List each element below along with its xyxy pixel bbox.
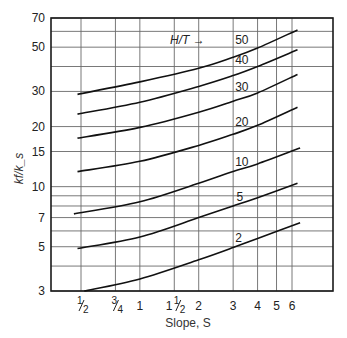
- curves: [74, 30, 300, 291]
- curve-label-2: 2: [235, 231, 242, 245]
- curve-ht-40: [78, 50, 298, 114]
- curve-labels: 504030201052: [235, 33, 249, 245]
- y-tick-label: 70: [32, 11, 46, 25]
- svg-text:5: 5: [273, 299, 280, 313]
- curve-ht-10: [74, 148, 300, 214]
- y-tick-label: 30: [32, 84, 46, 98]
- y-axis-title: kf/k_s: [12, 153, 26, 184]
- svg-text:2: 2: [83, 304, 89, 315]
- curve-label-20: 20: [235, 115, 249, 129]
- x-axis-tick-labels: 1234111223456: [77, 295, 296, 315]
- curve-ht-5: [78, 183, 298, 248]
- svg-text:6: 6: [289, 299, 296, 313]
- y-tick-label: 20: [32, 120, 46, 134]
- svg-text:1: 1: [137, 299, 144, 313]
- y-tick-label: 10: [32, 180, 46, 194]
- curve-ht-30: [78, 74, 298, 138]
- x-tick-label: 5: [273, 299, 280, 313]
- svg-text:4: 4: [117, 304, 123, 315]
- x-tick-label: 12: [77, 295, 89, 315]
- x-axis-title: Slope, S: [165, 316, 210, 330]
- curve-ht-2: [84, 223, 300, 291]
- y-tick-label: 7: [38, 211, 45, 225]
- svg-text:3: 3: [230, 299, 237, 313]
- svg-text:1: 1: [166, 299, 173, 313]
- x-tick-label: 112: [166, 295, 186, 315]
- x-tick-label: 4: [254, 299, 261, 313]
- x-tick-label: 1: [137, 299, 144, 313]
- svg-text:2: 2: [180, 304, 186, 315]
- curve-label-50: 50: [235, 33, 249, 47]
- chart: 504030201052 357101520305070 12341112234…: [0, 0, 347, 338]
- y-tick-label: 5: [38, 240, 45, 254]
- plot-frame: [51, 18, 333, 291]
- svg-text:4: 4: [254, 299, 261, 313]
- gridlines: [51, 18, 333, 291]
- curve-label-10: 10: [235, 155, 249, 169]
- y-tick-label: 3: [38, 284, 45, 298]
- svg-text:2: 2: [195, 299, 202, 313]
- curve-label-40: 40: [235, 53, 249, 67]
- y-tick-label: 50: [32, 40, 46, 54]
- y-tick-label: 15: [32, 145, 46, 159]
- x-tick-label: 34: [111, 295, 123, 315]
- x-tick-label: 3: [230, 299, 237, 313]
- x-tick-label: 2: [195, 299, 202, 313]
- x-tick-label: 6: [289, 299, 296, 313]
- y-axis-tick-labels: 357101520305070: [32, 11, 46, 298]
- legend-title: H/T →: [170, 33, 205, 47]
- curve-label-5: 5: [237, 190, 244, 204]
- curve-label-30: 30: [235, 80, 249, 94]
